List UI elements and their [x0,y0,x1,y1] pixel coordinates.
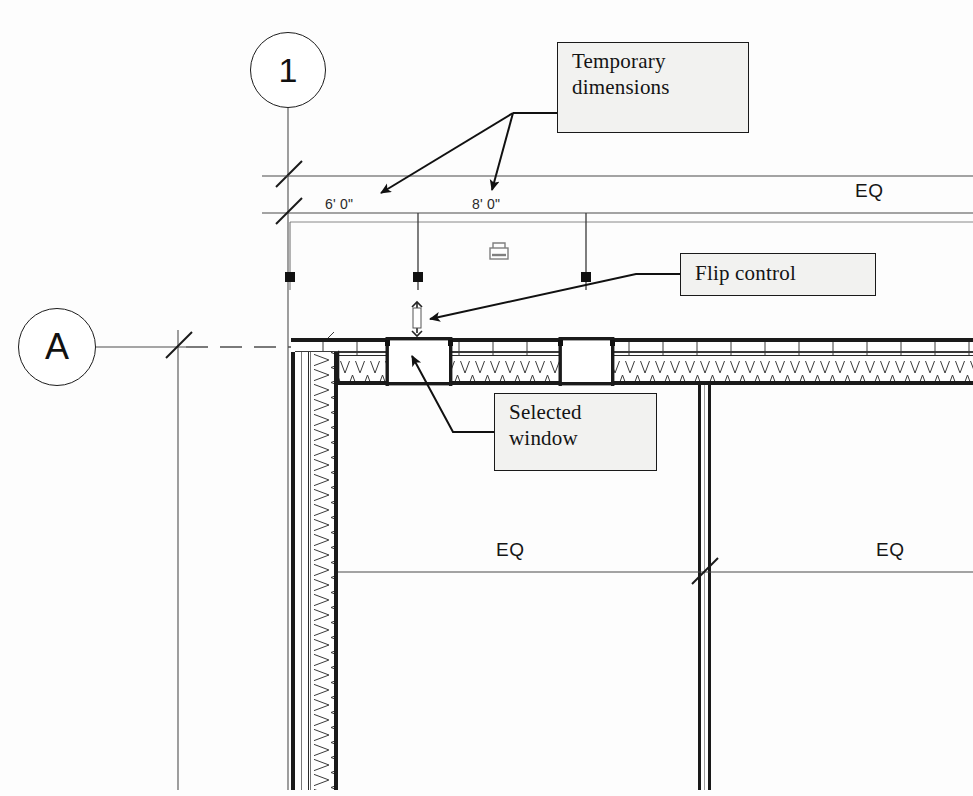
drag-handle-group [285,272,591,282]
grid-bubble-1[interactable]: 1 [250,32,326,108]
temporary-dimension-value-2[interactable]: 8' 0" [472,196,500,212]
grid-bubble-a-label: A [45,329,69,365]
callout-selected-window-line2: window [509,426,646,452]
exterior-wall-left [291,332,338,790]
callout-selected-window: Selected window [494,393,657,471]
flip-control-glyph [412,302,422,336]
eq-label-bottom-right[interactable]: EQ [876,539,904,561]
interior-partition-wall [698,385,711,790]
grid-bubble-1-label: 1 [279,53,298,87]
drawing-geometry [0,0,973,796]
callout-flip-control: Flip control [680,253,876,296]
callout-temporary-dimensions-line2: dimensions [572,75,738,101]
grid-bubble-a[interactable]: A [18,308,96,386]
callout-temporary-dimensions-line1: Temporary [572,49,738,75]
leader-flip-control [430,274,680,319]
leader-temporary-dimensions [381,113,557,193]
temporary-dimension-value-1[interactable]: 6' 0" [325,196,353,212]
padlock-icon [490,243,508,259]
floor-plan-canvas: 1 A Temporary dimensions Flip control Se… [0,0,973,796]
eq-label-top[interactable]: EQ [855,180,883,202]
callout-selected-window-line1: Selected [509,400,646,426]
callout-temporary-dimensions: Temporary dimensions [557,42,749,133]
window-second [559,337,615,386]
window-selected [386,337,453,386]
eq-label-bottom-left[interactable]: EQ [496,539,524,561]
callout-flip-control-line1: Flip control [695,261,865,287]
